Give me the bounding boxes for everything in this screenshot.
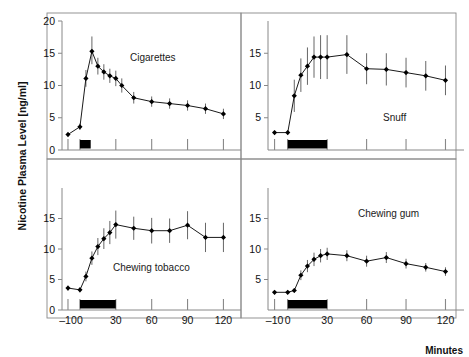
x-tick-label: 120 [437, 314, 455, 326]
data-line [275, 55, 446, 133]
x-tick-label: 30 [321, 314, 333, 326]
y-tick-label: 5 [49, 111, 55, 123]
data-point [272, 290, 277, 295]
x-tick-label: –10 [59, 314, 77, 326]
x-tick-label: 90 [182, 314, 194, 326]
panel-title-cigarettes: Cigarettes [130, 52, 176, 63]
x-tick-label: 0 [77, 314, 83, 326]
data-point [221, 235, 226, 240]
data-point [272, 130, 277, 135]
data-point [403, 70, 408, 75]
x-tick-label: 120 [215, 314, 233, 326]
data-point [83, 76, 88, 81]
data-point [443, 78, 448, 83]
panel-title-snuff: Snuff [383, 112, 406, 123]
data-point [77, 124, 82, 129]
y-tick-label: 10 [249, 79, 261, 91]
x-axis-label: Minutes [425, 345, 463, 356]
nicotine-plasma-level-figure: Nicotine Plasma Level [ng/ml] Minutes 05… [0, 0, 469, 357]
data-point [292, 93, 297, 98]
panel-title-chewing-tobacco: Chewing tobacco [113, 262, 190, 273]
y-tick-label: 10 [249, 243, 261, 255]
data-point [83, 274, 88, 279]
exposure-bar [288, 300, 327, 309]
x-tick-label: 0 [285, 314, 291, 326]
chart-canvas: 0510152051015051015–10030609012051015–10… [0, 0, 469, 357]
data-point [344, 253, 349, 258]
data-point [364, 259, 369, 264]
panel-cigarettes: 05101520 [43, 15, 241, 156]
data-point [89, 256, 94, 261]
y-tick-label: 15 [43, 47, 55, 59]
x-tick-label: –10 [266, 314, 284, 326]
data-point [149, 228, 154, 233]
data-point [131, 226, 136, 231]
data-point [443, 269, 448, 274]
data-point [285, 130, 290, 135]
data-point [384, 255, 389, 260]
data-point [167, 101, 172, 106]
data-line [68, 51, 223, 134]
data-point [167, 228, 172, 233]
panel-frame-2 [47, 159, 241, 318]
panel-chewing-gum: 51015–100306090120 [249, 188, 464, 326]
panel-snuff: 51015 [249, 21, 464, 150]
exposure-bar [288, 140, 327, 149]
data-point [65, 132, 70, 137]
x-tick-label: 90 [400, 314, 412, 326]
y-tick-label: 20 [43, 15, 55, 27]
y-tick-label: 10 [43, 243, 55, 255]
data-point [89, 49, 94, 54]
data-point [325, 55, 330, 60]
y-tick-label: 0 [49, 304, 55, 316]
data-point [384, 67, 389, 72]
panel-frame-0 [47, 13, 241, 159]
y-tick-label: 5 [49, 273, 55, 285]
data-line [275, 254, 446, 292]
y-tick-label: 5 [255, 111, 261, 123]
data-point [318, 55, 323, 60]
data-point [149, 99, 154, 104]
data-point [325, 251, 330, 256]
panel-frame-1 [241, 13, 456, 159]
data-point [185, 103, 190, 108]
data-point [318, 253, 323, 258]
data-point [203, 106, 208, 111]
panel-chewing-tobacco: 051015–100306090120 [43, 188, 241, 326]
data-point [423, 265, 428, 270]
panel-frame-3 [241, 159, 456, 318]
data-point [107, 73, 112, 78]
data-point [403, 261, 408, 266]
data-point [423, 73, 428, 78]
x-tick-label: 60 [146, 314, 158, 326]
y-tick-label: 15 [249, 212, 261, 224]
data-point [292, 288, 297, 293]
y-tick-label: 0 [49, 144, 55, 156]
exposure-bar [80, 300, 116, 309]
data-point [65, 285, 70, 290]
data-point [221, 111, 226, 116]
y-tick-label: 10 [43, 79, 55, 91]
y-tick-label: 15 [43, 212, 55, 224]
y-tick-label: 5 [255, 273, 261, 285]
y-axis-label: Nicotine Plasma Level [ng/ml] [16, 66, 28, 246]
data-point [77, 287, 82, 292]
exposure-bar [80, 140, 91, 149]
panel-title-chewing-gum: Chewing gum [358, 208, 419, 219]
data-point [285, 290, 290, 295]
y-tick-label: 15 [249, 47, 261, 59]
x-tick-label: 60 [361, 314, 373, 326]
x-tick-label: 30 [110, 314, 122, 326]
